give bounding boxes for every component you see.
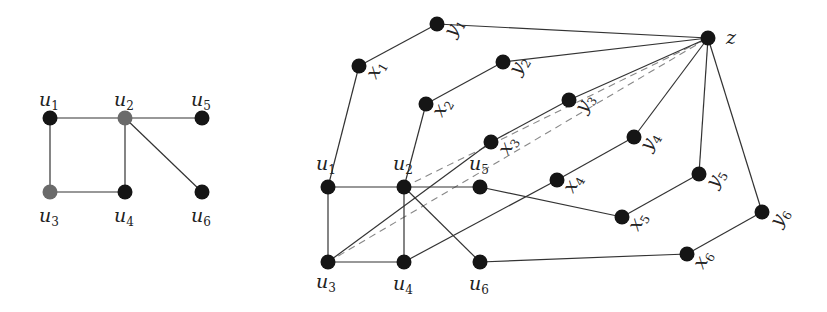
graph-diagram: u1u2u5u3u4u6 u1u2u5u3u4u6x1y1x2y2x3y3x4y…	[0, 0, 827, 312]
node-u6	[195, 185, 210, 200]
node-label-u2: u2	[114, 88, 134, 113]
node-label-u3: u3	[39, 204, 59, 229]
edge-x3-y3	[491, 100, 569, 142]
edge-x2-y2	[426, 62, 503, 104]
node-u3	[43, 185, 58, 200]
node-u5	[473, 180, 488, 195]
edge-x4-y4	[557, 137, 634, 180]
node-u4	[397, 255, 412, 270]
node-label-y2: y2	[503, 51, 534, 80]
edge-x5-y5	[622, 174, 699, 217]
edge-y4-z	[634, 38, 708, 137]
edge-u3-x3	[328, 142, 491, 262]
edge-u2-u6	[125, 118, 202, 192]
node-label-y1: y1	[438, 13, 469, 42]
node-label-u6: u6	[469, 272, 489, 297]
node-label-u1: u1	[316, 152, 336, 177]
node-label-y6: y6	[764, 203, 795, 232]
node-label-y5: y5	[700, 164, 731, 193]
node-label-u5: u5	[191, 88, 211, 113]
node-label-x3: x3	[492, 131, 523, 159]
node-label-x2: x2	[426, 93, 457, 121]
node-label-u1: u1	[39, 88, 59, 113]
node-label-z: z	[725, 26, 737, 48]
node-u1	[321, 180, 336, 195]
edge-y3-z	[569, 38, 708, 100]
edge-y1-z	[437, 24, 708, 38]
edge-u6-x6	[480, 254, 687, 262]
node-label-u2: u2	[393, 152, 413, 177]
node-label-x4: x4	[557, 169, 588, 198]
edge-y2-z	[503, 38, 708, 62]
right-graph: u1u2u5u3u4u6x1y1x2y2x3y3x4y4x5y5x6y6z	[316, 13, 795, 297]
edge-x6-y6	[687, 212, 762, 254]
node-label-u4: u4	[114, 204, 134, 229]
node-z	[701, 31, 716, 46]
edge-y5-z	[699, 38, 708, 174]
node-label-u3: u3	[316, 270, 336, 295]
node-label-u4: u4	[393, 272, 413, 297]
edge-x1-y1	[359, 24, 437, 66]
node-u3	[321, 255, 336, 270]
left-graph: u1u2u5u3u4u6	[39, 88, 211, 229]
node-label-x1: x1	[360, 55, 391, 83]
node-u2	[397, 180, 412, 195]
node-u6	[473, 255, 488, 270]
edge-u5-x5	[480, 187, 622, 217]
node-label-u5: u5	[469, 152, 489, 177]
node-u4	[118, 185, 133, 200]
node-label-u6: u6	[191, 204, 211, 229]
node-label-x5: x5	[622, 207, 653, 235]
